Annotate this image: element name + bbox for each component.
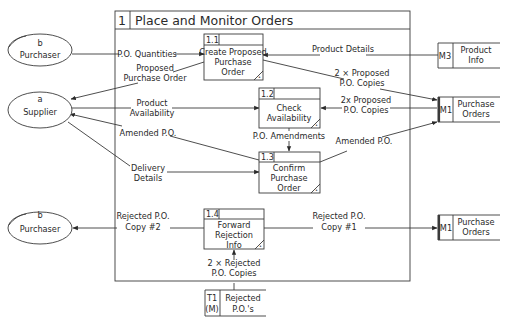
flow-label-product-availability-1: Product <box>136 98 168 108</box>
flow-label-proposed-po-2: Purchase Order <box>123 73 187 83</box>
flow-label-2x-proposed-b-1: 2x Proposed <box>341 95 391 105</box>
entity-name: Purchaser <box>20 224 61 234</box>
svg-text:Info: Info <box>468 55 484 65</box>
svg-text:Rejection: Rejection <box>215 230 253 240</box>
subprocess-id: 1.3 <box>261 153 274 162</box>
svg-text:Purchase: Purchase <box>214 57 251 67</box>
svg-text:Purchase: Purchase <box>457 99 494 109</box>
svg-text:•: • <box>259 243 262 249</box>
flow-label-delivery-details-1: Delivery <box>131 163 165 173</box>
entity-id: b <box>37 210 42 220</box>
svg-text:Confirm: Confirm <box>273 163 305 173</box>
data-flow-diagram: 1 Place and Monitor Orders <box>0 0 505 325</box>
svg-text:Create Proposed: Create Proposed <box>199 47 267 57</box>
process-title: Place and Monitor Orders <box>135 13 293 28</box>
store-id: T1 <box>206 293 217 303</box>
external-entity-purchaser-bottom[interactable]: b Purchaser <box>8 210 72 244</box>
entity-id: a <box>37 94 42 104</box>
flow-label-rejected-copy1-2: Copy #1 <box>321 222 356 232</box>
flow-label-2x-proposed-1: 2 × Proposed <box>335 68 390 78</box>
svg-text:•: • <box>315 122 318 128</box>
flow-label-product-availability-2: Availability <box>130 108 175 118</box>
svg-text:Availability: Availability <box>267 113 312 123</box>
data-store-t1-rejected-pos[interactable]: T1 (M) Rejected P.O.'s <box>205 290 266 316</box>
subprocess-1-1[interactable]: • 1.1 Create Proposed Purchase Order <box>199 34 267 80</box>
flow-label-2x-rejected-1: 2 × Rejected <box>208 258 261 268</box>
svg-text:Orders: Orders <box>462 109 490 119</box>
flow-label-product-details: Product Details <box>312 44 374 54</box>
flow-label-2x-proposed-b-2: P.O. Copies <box>343 105 388 115</box>
flow-label-rejected-copy2-1: Rejected P.O. <box>116 211 169 221</box>
entity-id: b <box>37 38 42 48</box>
flow-label-delivery-details-2: Details <box>134 173 162 183</box>
store-id: M1 <box>440 105 452 115</box>
svg-text:Product: Product <box>460 45 492 55</box>
data-store-m3-product-info[interactable]: M3 Product Info <box>438 43 500 68</box>
svg-text:Purchase: Purchase <box>270 173 307 183</box>
external-entity-purchaser-top[interactable]: b Purchaser <box>8 34 72 66</box>
data-store-m1-purchase-orders-top[interactable]: M1 Purchase Orders <box>438 97 500 122</box>
data-store-m1-purchase-orders-bottom[interactable]: M1 Purchase Orders <box>438 215 500 240</box>
subprocess-1-4[interactable]: • 1.4 Forward Rejection Info <box>204 209 264 250</box>
flow-label-amended-po-supplier: Amended P.O. <box>120 128 177 138</box>
subprocess-id: 1.1 <box>206 36 219 45</box>
flow-lines <box>68 54 438 290</box>
flow-label-2x-proposed-2: P.O. Copies <box>339 78 384 88</box>
subprocess-1-2[interactable]: • 1.2 Check Availability <box>259 88 320 128</box>
subprocess-id: 1.2 <box>261 90 274 99</box>
svg-text:Order: Order <box>221 67 245 77</box>
flow-label-po-quantities: P.O. Quantities <box>117 49 177 59</box>
svg-text:Rejected: Rejected <box>225 293 261 303</box>
svg-text:•: • <box>315 187 318 193</box>
svg-text:Order: Order <box>277 183 301 193</box>
flow-label-rejected-copy1-1: Rejected P.O. <box>312 211 365 221</box>
flow-label-amended-po-store: Amended P.O. <box>336 136 393 146</box>
store-id: M3 <box>439 51 451 61</box>
flow-label-rejected-copy2-2: Copy #2 <box>125 222 160 232</box>
subprocess-1-3[interactable]: • 1.3 Confirm Purchase Order <box>259 152 320 193</box>
store-id-qualifier: (M) <box>205 304 218 314</box>
svg-text:Info: Info <box>226 240 242 250</box>
svg-text:Check: Check <box>276 103 301 113</box>
external-entity-supplier[interactable]: a Supplier <box>8 92 72 128</box>
store-id: M1 <box>440 223 452 233</box>
svg-text:•: • <box>258 74 261 80</box>
svg-text:Forward: Forward <box>218 220 251 230</box>
svg-text:Orders: Orders <box>462 227 490 237</box>
entity-name: Supplier <box>23 107 57 117</box>
subprocess-id: 1.4 <box>206 210 219 219</box>
flow-label-2x-rejected-2: P.O. Copies <box>211 268 256 278</box>
process-id: 1 <box>118 13 126 28</box>
entity-name: Purchaser <box>20 50 61 60</box>
flow-label-proposed-po-1: Proposed <box>136 63 174 73</box>
svg-text:Purchase: Purchase <box>457 217 494 227</box>
flow-label-po-amendments: P.O. Amendments <box>253 131 325 141</box>
svg-text:P.O.'s: P.O.'s <box>232 304 254 314</box>
